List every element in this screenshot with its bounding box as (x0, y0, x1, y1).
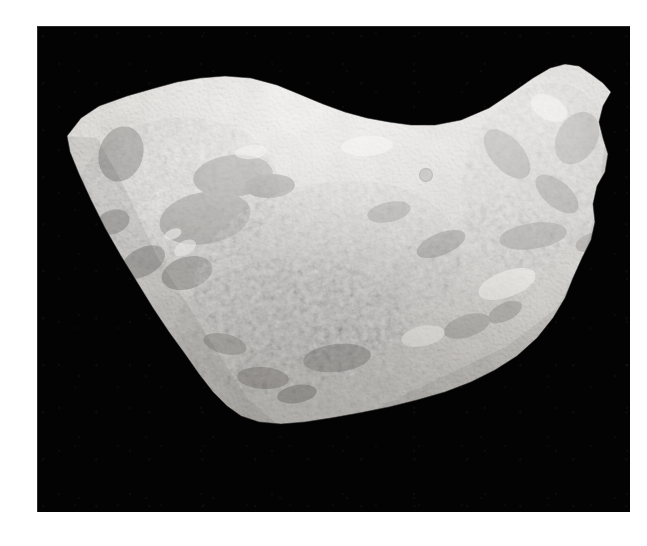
fossil-slab-graphic (37, 26, 630, 512)
slab-body (37, 26, 630, 512)
photo-page: Black-and-white photograph of an irregul… (0, 0, 647, 546)
fossil-specimen (37, 26, 630, 512)
photograph-black-field (37, 26, 630, 512)
lower-shadow (37, 26, 630, 512)
